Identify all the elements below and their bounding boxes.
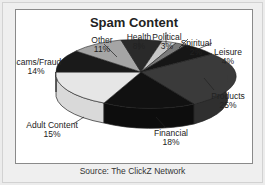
source-caption: Source: The ClickZ Network bbox=[0, 166, 265, 176]
label-health-value: 8% bbox=[133, 41, 146, 51]
label-adult-value: 15% bbox=[43, 129, 60, 139]
label-financial-value: 18% bbox=[162, 137, 179, 147]
label-spiritual-value: 2% bbox=[190, 47, 203, 57]
label-political-value: 3% bbox=[161, 41, 174, 51]
chart-box: Spam Content bbox=[15, 9, 253, 164]
label-scams-value: 14% bbox=[27, 66, 44, 76]
pie-chart: Other 11% Health 8% Political 3% Spiritu… bbox=[16, 10, 252, 163]
label-other-value: 11% bbox=[94, 44, 111, 54]
label-leisure-value: 4% bbox=[222, 56, 235, 66]
label-products-value: 25% bbox=[219, 100, 236, 110]
